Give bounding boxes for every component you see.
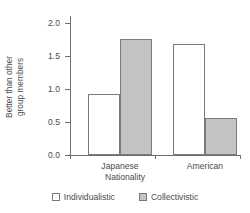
y-axis-title-line-2: group members [15, 18, 26, 156]
bar-chart-figure: Better than other group members 0.0 0.5 … [0, 0, 250, 213]
bar-japanese-collectivistic [120, 39, 152, 155]
x-axis-title: Nationality [0, 172, 250, 182]
y-tick-label-2: 1.0 [36, 85, 60, 94]
y-tick-mark-4 [65, 23, 70, 24]
bar-american-individualistic [173, 44, 205, 155]
bar-american-collectivistic [205, 118, 237, 155]
x-tick-mark-middle [155, 155, 156, 159]
legend-swatch-collectivistic-icon [139, 193, 147, 201]
x-tick-mark-end [240, 155, 241, 159]
x-tick-label-japanese: Japanese [101, 161, 138, 171]
x-tick-mark-start [70, 155, 71, 159]
y-tick-label-3: 1.5 [36, 52, 60, 61]
y-axis-line [70, 16, 71, 155]
legend-label-collectivistic: Collectivistic [151, 192, 198, 202]
bar-japanese-individualistic [88, 94, 120, 155]
legend-label-individualistic: Individualistic [64, 192, 115, 202]
y-tick-label-0: 0.0 [36, 151, 60, 160]
y-tick-mark-1 [65, 122, 70, 123]
x-tick-label-american: American [187, 161, 223, 171]
legend-item-individualistic: Individualistic [52, 192, 115, 202]
legend-item-collectivistic: Collectivistic [139, 192, 198, 202]
y-tick-label-1: 0.5 [36, 118, 60, 127]
y-tick-label-4: 2.0 [36, 19, 60, 28]
y-tick-mark-2 [65, 89, 70, 90]
y-axis-title: Better than other group members [4, 18, 25, 156]
y-axis-title-line-1: Better than other [4, 18, 15, 156]
plot-area: Japanese American [70, 23, 240, 155]
legend-swatch-individualistic-icon [52, 193, 60, 201]
y-tick-mark-3 [65, 56, 70, 57]
chart-legend: Individualistic Collectivistic [0, 192, 250, 202]
